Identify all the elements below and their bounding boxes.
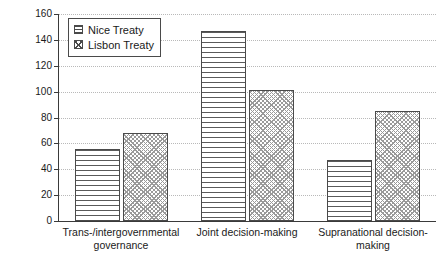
y-tick-mark [54,195,58,196]
y-axis-line [58,14,59,222]
legend-item-lisbon-treaty[interactable]: Lisbon Treaty [74,37,154,52]
x-tick-label-line: Trans-/intergovernmental [58,226,184,239]
y-tick-mark [54,92,58,93]
y-tick-label: 40 [6,164,52,174]
y-tick-mark [54,143,58,144]
y-tick-label: 160 [6,9,52,19]
gridline [58,66,436,67]
y-tick-label: 80 [6,113,52,123]
y-tick-label: 100 [6,87,52,97]
y-tick-label: 20 [6,190,52,200]
gridline [58,92,436,93]
bar[interactable] [375,111,420,221]
y-tick-mark [54,14,58,15]
y-tick-mark [54,66,58,67]
x-tick-label-line: governance [58,239,184,252]
axis-baseline [58,221,436,222]
legend-label-lisbon-treaty: Lisbon Treaty [88,39,154,51]
y-tick-mark [54,221,58,222]
bar[interactable] [327,160,372,221]
legend-swatch-nice-treaty [74,25,83,34]
x-tick-label-line: Supranational decision-making [310,226,436,252]
y-tick-mark [54,40,58,41]
y-tick-label: 60 [6,138,52,148]
x-tick-label-line: Joint decision-making [184,226,310,239]
gridline [58,14,436,15]
bar-chart: 160140120100806040200 Trans-/intergovern… [0,0,448,262]
legend-swatch-lisbon-treaty [74,40,83,49]
x-axis-labels: Trans-/intergovernmentalgovernanceJoint … [58,226,436,262]
legend: Nice Treaty Lisbon Treaty [68,18,161,57]
x-tick-label: Trans-/intergovernmentalgovernance [58,226,184,252]
y-tick-label: 0 [6,216,52,226]
y-tick-label: 120 [6,61,52,71]
y-tick-mark [54,169,58,170]
bar[interactable] [249,90,294,221]
y-tick-label: 140 [6,35,52,45]
y-tick-mark [54,118,58,119]
bar[interactable] [123,133,168,221]
legend-label-nice-treaty: Nice Treaty [88,24,144,36]
x-tick-label: Supranational decision-making [310,226,436,252]
y-axis-labels: 160140120100806040200 [0,0,52,262]
x-tick-label: Joint decision-making [184,226,310,239]
bar[interactable] [201,31,246,221]
legend-item-nice-treaty[interactable]: Nice Treaty [74,22,154,37]
bar[interactable] [75,149,120,221]
